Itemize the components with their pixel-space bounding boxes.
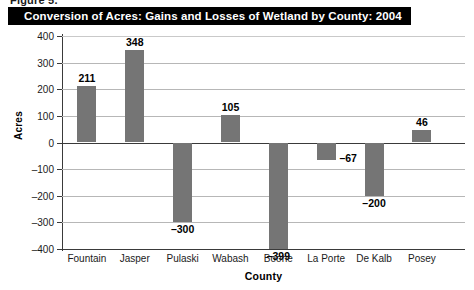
y-axis-tick-label: –200	[32, 190, 54, 201]
y-axis-tick	[57, 116, 62, 117]
y-axis-tick	[57, 169, 62, 170]
gridline: –200	[62, 196, 465, 197]
y-axis-title: Acres	[13, 96, 24, 156]
x-axis-tick-label: Posey	[387, 253, 457, 264]
y-axis-tick-label: –100	[32, 164, 54, 175]
plot-area: 4003002001000–100–200–300–400211348–3001…	[62, 36, 465, 249]
bar-fountain[interactable]	[77, 86, 96, 142]
y-axis-tick	[57, 89, 62, 90]
bar-de-kalb[interactable]	[365, 143, 384, 196]
bar-pulaski[interactable]	[173, 143, 192, 223]
gridline: 300	[62, 63, 465, 64]
y-axis-tick	[57, 196, 62, 197]
gridline: –300	[62, 222, 465, 223]
zero-line: 0	[62, 143, 465, 144]
bar-posey[interactable]	[412, 130, 431, 142]
y-axis-tick-label: –400	[32, 244, 54, 255]
y-axis-tick-label: 400	[37, 31, 54, 42]
figure-label: Figure 5.	[10, 0, 58, 6]
gridline: –100	[62, 169, 465, 170]
bar-value-label: 211	[57, 72, 117, 84]
y-axis-tick	[57, 63, 62, 64]
bar-jasper[interactable]	[125, 50, 144, 143]
x-axis-line	[62, 249, 465, 250]
bar-value-label: 105	[200, 101, 260, 113]
y-axis-tick-label: 0	[48, 137, 54, 148]
bar-chart: Acres 4003002001000–100–200–300–40021134…	[0, 28, 474, 290]
y-axis-tick	[57, 222, 62, 223]
bar-boone[interactable]	[269, 143, 288, 249]
bar-value-label: –200	[344, 197, 404, 209]
chart-title-bar: Conversion of Acres: Gains and Losses of…	[8, 7, 411, 25]
y-axis-tick-label: 300	[37, 57, 54, 68]
gridline: 200	[62, 89, 465, 90]
y-axis-tick-label: 200	[37, 84, 54, 95]
y-axis-tick	[57, 143, 62, 144]
x-axis-tick-labels: FountainJasperPulaskiWabashBooneLa Porte…	[62, 253, 465, 267]
bar-value-label: –300	[153, 223, 213, 235]
bar-value-label: 348	[105, 36, 165, 48]
y-axis-tick-label: –300	[32, 217, 54, 228]
page-title: Conversion of Acres: Gains and Losses of…	[8, 10, 402, 22]
y-axis-tick-label: 100	[37, 110, 54, 121]
y-axis-tick	[57, 36, 62, 37]
x-axis-title: County	[62, 270, 465, 282]
bar-wabash[interactable]	[221, 115, 240, 143]
bar-value-label: 46	[392, 116, 452, 128]
